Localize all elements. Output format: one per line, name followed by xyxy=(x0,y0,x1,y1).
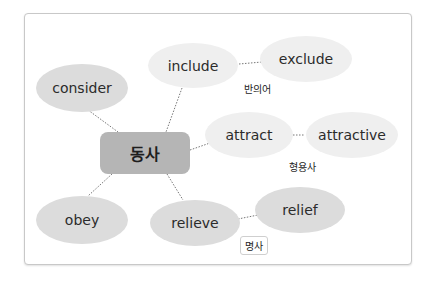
node-relief: relief xyxy=(255,187,345,233)
center-node: 동사 xyxy=(100,132,190,174)
node-obey: obey xyxy=(36,196,128,244)
node-relieve: relieve xyxy=(150,200,240,246)
label-antonym: 반의어 xyxy=(240,80,275,97)
node-attractive: attractive xyxy=(306,112,398,158)
node-include: include xyxy=(148,43,238,88)
node-attract: attract xyxy=(205,112,293,158)
label-adjective: 형용사 xyxy=(285,158,320,175)
node-exclude: exclude xyxy=(260,36,352,82)
label-noun: 명사 xyxy=(240,236,268,255)
node-consider: consider xyxy=(36,64,128,112)
